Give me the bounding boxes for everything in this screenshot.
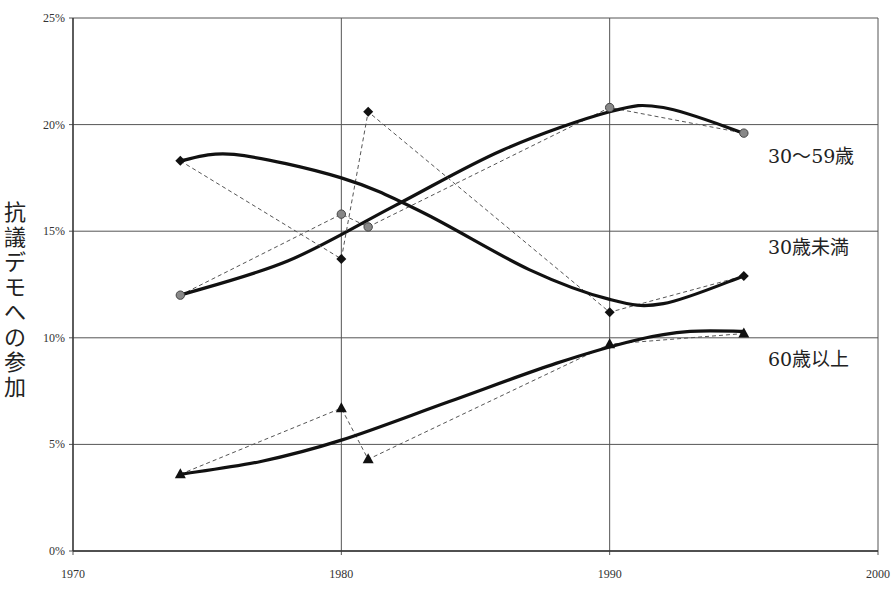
series-labels: 30〜59歳30歳未満60歳以上 xyxy=(768,145,854,370)
dashed-line-circle xyxy=(180,108,744,296)
x-tick-label: 1980 xyxy=(329,567,353,581)
y-tick-label: 10% xyxy=(43,331,65,345)
x-tick-label: 1970 xyxy=(61,567,85,581)
diamond-marker-icon xyxy=(739,271,749,281)
y-tick-label: 20% xyxy=(43,118,65,132)
y-tick-label: 5% xyxy=(49,437,65,451)
y-tick-label: 25% xyxy=(43,11,65,25)
circle-marker-icon xyxy=(337,210,345,218)
y-tick-label: 0% xyxy=(49,544,65,558)
trend-curve-triangle xyxy=(180,331,744,474)
tick-labels: 0%5%10%15%20%25%1970198019902000 xyxy=(43,11,890,581)
trend-curve-diamond xyxy=(180,154,744,306)
triangle-marker-icon xyxy=(604,338,615,348)
dashed-line-triangle xyxy=(180,334,744,475)
series-label: 30〜59歳 xyxy=(768,145,854,167)
series-label: 60歳以上 xyxy=(768,348,849,370)
diamond-marker-icon xyxy=(363,107,373,117)
dashed-line-diamond xyxy=(180,112,744,312)
line-chart: 0%5%10%15%20%25%1970198019902000 30〜59歳3… xyxy=(0,0,892,594)
circle-marker-icon xyxy=(364,223,372,231)
grid-lines xyxy=(69,18,878,555)
y-tick-label: 15% xyxy=(43,224,65,238)
circle-marker-icon xyxy=(176,291,184,299)
circle-marker-icon xyxy=(740,129,748,137)
diamond-marker-icon xyxy=(175,156,185,166)
x-tick-label: 1990 xyxy=(598,567,622,581)
trend-curve-circle xyxy=(180,105,744,295)
series-label: 30歳未満 xyxy=(768,236,849,258)
circle-marker-icon xyxy=(605,103,613,111)
x-tick-label: 2000 xyxy=(866,567,890,581)
triangle-marker-icon xyxy=(363,453,374,463)
diamond-marker-icon xyxy=(336,254,346,264)
series-group xyxy=(175,103,750,478)
triangle-marker-icon xyxy=(336,402,347,412)
